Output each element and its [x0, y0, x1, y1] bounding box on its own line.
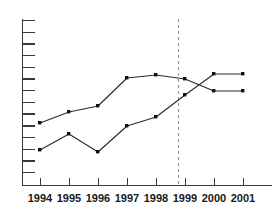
series-a-point	[212, 89, 215, 92]
x-axis-tick-labels: 1994 1995 1996 1997 1998 1999 2000 2001	[28, 192, 255, 204]
series-a-point	[67, 110, 70, 113]
series-a-point	[125, 76, 128, 79]
series-a-point	[241, 89, 244, 92]
line-chart: 1994 1995 1996 1997 1998 1999 2000 2001	[0, 0, 278, 212]
x-tick-label: 1994	[28, 192, 53, 204]
series-a-point	[154, 73, 157, 76]
chart-canvas: 1994 1995 1996 1997 1998 1999 2000 2001	[0, 0, 278, 212]
series-b-point	[125, 124, 128, 127]
x-tick-label: 2000	[202, 192, 226, 204]
y-axis	[23, 19, 36, 186]
series-b-point	[154, 115, 157, 118]
x-tick-label: 1999	[173, 192, 197, 204]
series-b-point	[38, 148, 41, 151]
series-b-point	[67, 132, 70, 135]
series-a-point	[38, 121, 41, 124]
x-tick-label: 1996	[86, 192, 110, 204]
y-axis-ticks	[23, 21, 36, 173]
series-a-line	[40, 75, 243, 123]
x-tick-label: 1995	[57, 192, 81, 204]
x-tick-label: 1998	[144, 192, 168, 204]
series-b-point	[212, 72, 215, 75]
series-a-point	[183, 77, 186, 80]
series-b-point	[183, 93, 186, 96]
series-b-line	[40, 74, 243, 152]
series-b-point	[96, 150, 99, 153]
x-axis	[22, 178, 272, 186]
x-axis-ticks	[41, 178, 244, 186]
series-a	[38, 73, 244, 124]
series-b-point	[241, 72, 244, 75]
series-a-point	[96, 104, 99, 107]
x-tick-label: 1997	[115, 192, 139, 204]
x-tick-label: 2001	[231, 192, 255, 204]
